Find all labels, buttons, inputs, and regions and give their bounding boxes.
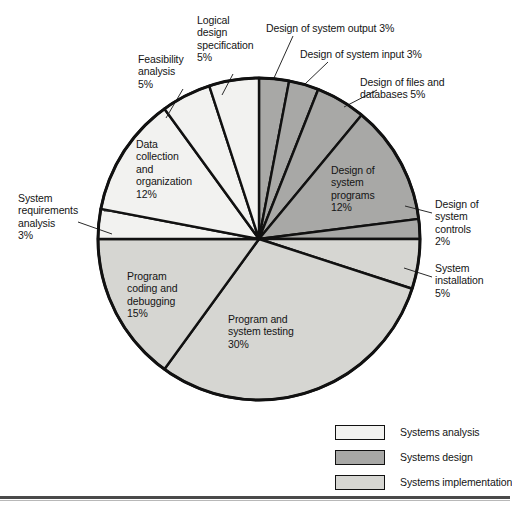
callout-feasibility-analysis: Feasibility analysis 5% xyxy=(138,53,184,90)
pie-slice-group xyxy=(98,78,420,400)
callout-logical-design-specification: Logical design specification 5% xyxy=(197,14,253,64)
legend-item-systems-analysis[interactable]: Systems analysis xyxy=(335,421,510,443)
inner-label-data-collection-and-organization: Data collection and organization 12% xyxy=(136,138,192,200)
callout-design-of-system-output: Design of system output 3% xyxy=(266,22,394,34)
legend-label-systems-implementation: Systems implementation xyxy=(400,476,512,488)
legend-swatch-systems-implementation xyxy=(335,475,385,490)
legend-item-systems-implementation[interactable]: Systems implementation xyxy=(335,471,510,493)
callout-design-of-files-and-databases: Design of files and databases 5% xyxy=(360,76,444,101)
footer-divider-thin xyxy=(0,500,510,501)
legend-swatch-systems-analysis xyxy=(335,425,385,440)
inner-label-program-and-system-testing: Program and system testing 30% xyxy=(228,313,294,350)
callout-system-requirements-analysis: System requirements analysis 3% xyxy=(18,192,78,242)
leader-line xyxy=(305,62,328,84)
legend-item-systems-design[interactable]: Systems design xyxy=(335,446,510,468)
legend-swatch-systems-design xyxy=(335,450,385,465)
legend: Systems analysis Systems design Systems … xyxy=(335,421,510,496)
inner-label-design-of-system-programs: Design of system programs 12% xyxy=(331,164,375,214)
legend-label-systems-design: Systems design xyxy=(400,451,473,463)
callout-design-of-system-input: Design of system input 3% xyxy=(300,48,422,60)
legend-label-systems-analysis: Systems analysis xyxy=(400,426,480,438)
footer-divider xyxy=(0,496,510,499)
leader-line xyxy=(274,36,293,78)
callout-system-installation: System installation 5% xyxy=(435,262,483,299)
inner-label-program-coding-and-debugging: Program coding and debugging 15% xyxy=(127,270,177,320)
callout-design-of-system-controls: Design of system controls 2% xyxy=(435,198,478,248)
footer-ghost-text xyxy=(3,504,363,512)
